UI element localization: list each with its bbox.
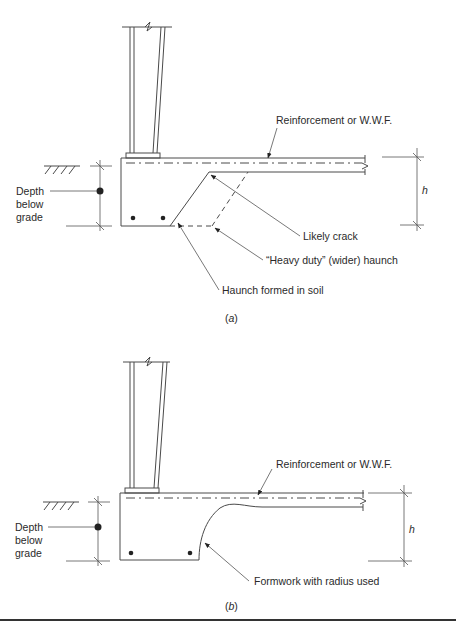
figure-a: Depth below grade h Reinforcement or W.W… <box>16 22 428 324</box>
h-dimension-b <box>368 485 412 567</box>
caption-a: (a) <box>225 312 238 324</box>
reinforcement-leader-b <box>258 469 272 495</box>
footing-slab-a <box>121 155 368 226</box>
rebar-dot <box>188 551 193 556</box>
figure-b: Depth below grade h Reinforcement or W.W… <box>15 357 415 612</box>
likely-crack-label: Likely crack <box>303 230 359 242</box>
heavy-duty-haunch-label: “Heavy duty” (wider) haunch <box>266 254 398 266</box>
rebar-dot <box>161 216 166 221</box>
depth-label-line1: Depth <box>16 185 44 197</box>
heavy-duty-haunch-leader <box>215 228 263 260</box>
depth-label-line3: grade <box>16 211 43 223</box>
haunch-formed-leader <box>178 223 219 290</box>
foundation-haunch-diagram: Depth below grade h Reinforcement or W.W… <box>0 0 456 621</box>
reinforcement-label-a: Reinforcement or W.W.F. <box>276 114 392 126</box>
formwork-radius-label: Formwork with radius used <box>254 575 380 587</box>
footing-slab-b <box>120 490 366 560</box>
depth-label-line3-b: grade <box>15 547 42 559</box>
rebar-dot <box>131 216 136 221</box>
haunch-formed-label: Haunch formed in soil <box>222 284 324 296</box>
reinforcement-label-b: Reinforcement or W.W.F. <box>276 458 392 470</box>
likely-crack-leader <box>211 175 300 236</box>
formwork-radius-leader <box>205 543 249 581</box>
depth-dimension-a <box>50 160 112 231</box>
column-a <box>122 22 172 158</box>
depth-label-line1-b: Depth <box>15 521 43 533</box>
depth-label-line2: below <box>16 198 44 210</box>
grade-hatch-a <box>44 166 80 174</box>
column-b <box>123 357 170 493</box>
reinforcement-leader-a <box>268 128 277 158</box>
h-label-b: h <box>409 523 415 535</box>
grade-hatch-b <box>43 502 79 510</box>
rebar-dot <box>129 551 134 556</box>
caption-b: (b) <box>225 600 238 612</box>
h-label-a: h <box>422 184 428 196</box>
h-dimension-a <box>382 148 424 231</box>
depth-dimension-b <box>48 496 110 566</box>
depth-label-line2-b: below <box>15 534 43 546</box>
